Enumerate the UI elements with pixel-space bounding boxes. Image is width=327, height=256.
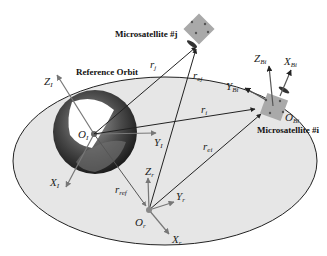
reference-orbit-label: Reference Orbit	[76, 67, 138, 77]
z-inertial-label: ZI	[44, 75, 53, 89]
orbit-diagram: Reference Orbit Microsatellite #j Micros…	[0, 0, 327, 256]
microsatellite-j	[183, 13, 214, 49]
microsatellite-j-label: Microsatellite #j	[115, 29, 178, 39]
x-body-label: XBi	[283, 55, 297, 69]
origin-body-label: OBi	[285, 111, 299, 125]
microsatellite-i-label: Microsatellite #i	[257, 125, 320, 135]
r-ej-label: rej	[193, 69, 202, 83]
y-body-label: YBi	[226, 80, 238, 94]
r-j-label: rj	[150, 58, 156, 72]
origin-ref-dot	[146, 207, 152, 213]
z-body-label: ZBi	[254, 52, 266, 66]
